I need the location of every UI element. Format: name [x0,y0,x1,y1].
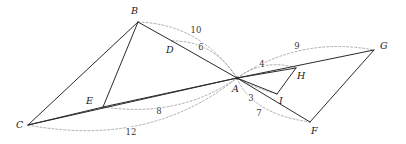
arc-label-7: 7 [256,108,261,118]
point-label-g: G [380,40,388,51]
segment-b-c [28,22,138,125]
arc-c-to-a [28,78,237,131]
diagram-canvas: ABCDEFGHI 10106688121299443377 [0,0,406,144]
point-label-d: D [165,44,174,55]
vertex-dot-a [235,76,238,79]
segment-b-d [138,22,172,41]
segment-a-i [237,78,277,94]
point-label-i: I [278,95,283,106]
vertex-layer [235,76,238,79]
point-label-a: A [231,83,239,94]
arc-label-layer: 10106688121299443377 [126,25,300,137]
arc-label-9: 9 [294,41,299,51]
segment-d-a [172,41,237,78]
point-label-layer: ABCDEFGHI [16,5,388,136]
point-label-b: B [130,5,138,16]
geometry-diagram: ABCDEFGHI 10106688121299443377 [0,0,406,144]
arc-label-10: 10 [191,25,202,35]
point-label-f: F [310,125,318,136]
arc-label-4: 4 [259,59,264,69]
arc-label-12: 12 [126,127,137,137]
segment-layer [28,22,374,125]
point-label-e: E [85,95,93,106]
point-label-c: C [16,119,24,130]
arc-label-6: 6 [198,42,203,52]
segment-h-i [277,68,296,94]
segment-e-b [103,22,138,107]
point-label-h: H [296,70,306,81]
arc-label-8: 8 [156,106,161,116]
arc-label-3: 3 [248,93,253,103]
